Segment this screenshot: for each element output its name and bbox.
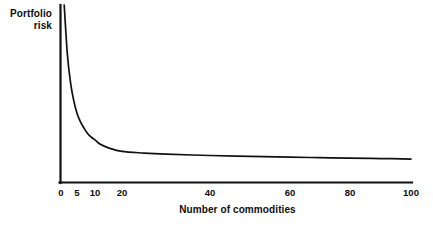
x-axis-title: Number of commodities bbox=[60, 204, 415, 215]
x-tick-label-80: 80 bbox=[345, 187, 356, 198]
diversification-chart-figure: Portfolio risk Number of commodities 051… bbox=[0, 0, 433, 237]
x-tick-label-40: 40 bbox=[205, 187, 216, 198]
x-tick-label-0: 0 bbox=[58, 187, 63, 198]
x-tick-label-10: 10 bbox=[90, 187, 101, 198]
y-axis-title-line1: Portfolio bbox=[10, 8, 52, 19]
chart-plot-area bbox=[0, 0, 433, 237]
portfolio-risk-curve bbox=[64, 5, 411, 159]
x-tick-label-5: 5 bbox=[74, 187, 79, 198]
x-tick-label-60: 60 bbox=[285, 187, 296, 198]
x-tick-label-100: 100 bbox=[403, 187, 419, 198]
x-tick-label-20: 20 bbox=[117, 187, 128, 198]
y-axis-title: Portfolio risk bbox=[0, 8, 52, 32]
y-axis-title-line2: risk bbox=[34, 20, 52, 31]
